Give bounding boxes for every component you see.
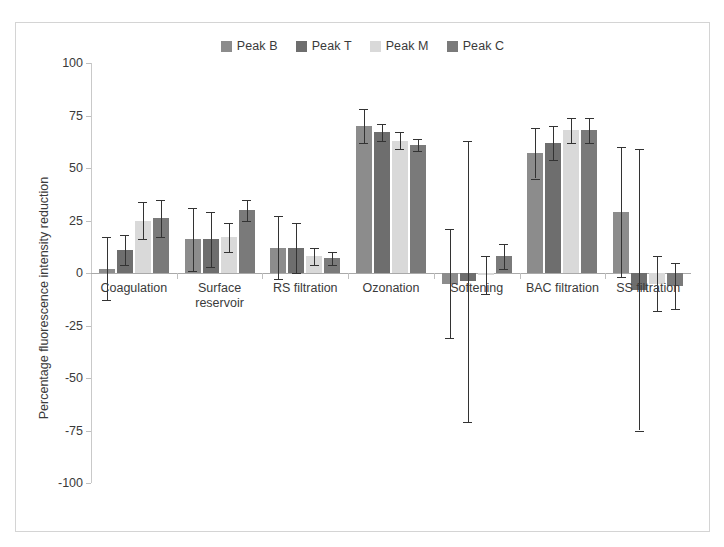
- error-bar: [621, 147, 622, 277]
- bar-group: [91, 63, 177, 483]
- error-bar-cap: [359, 143, 368, 144]
- error-bar-cap: [138, 202, 147, 203]
- legend-item: Peak C: [447, 39, 505, 53]
- error-bar-cap: [499, 269, 508, 270]
- error-bar-cap: [445, 229, 454, 230]
- error-bar-cap: [463, 141, 472, 142]
- error-bar-cap: [206, 212, 215, 213]
- legend-swatch-icon: [221, 41, 232, 52]
- error-bar: [571, 118, 572, 143]
- error-bar-cap: [274, 216, 283, 217]
- error-bar-cap: [445, 338, 454, 339]
- legend-item: Peak B: [221, 39, 278, 53]
- error-bar-cap: [138, 239, 147, 240]
- error-bar-cap: [671, 263, 680, 264]
- error-bar-cap: [377, 141, 386, 142]
- error-bar: [125, 235, 126, 264]
- error-bar-cap: [120, 235, 129, 236]
- error-bar: [161, 200, 162, 238]
- error-bar-cap: [310, 265, 319, 266]
- x-axis-category-label: Coagulation: [91, 281, 177, 296]
- legend-item: Peak T: [296, 39, 352, 53]
- error-bar-cap: [156, 237, 165, 238]
- legend-swatch-icon: [447, 41, 458, 52]
- error-bar-cap: [635, 149, 644, 150]
- error-bar: [382, 124, 383, 141]
- error-bar-cap: [328, 252, 337, 253]
- error-bar: [553, 126, 554, 160]
- error-bar-cap: [328, 265, 337, 266]
- error-bar-cap: [671, 309, 680, 310]
- error-bar-cap: [188, 208, 197, 209]
- bar[interactable]: [392, 141, 408, 273]
- error-bar: [314, 248, 315, 265]
- error-bar: [278, 216, 279, 279]
- error-bar-cap: [463, 422, 472, 423]
- x-axis-tick-mark: [177, 273, 178, 279]
- chart-frame: Peak BPeak TPeak MPeak C Percentage fluo…: [15, 22, 710, 532]
- x-axis-tick-mark: [348, 273, 349, 279]
- error-bar-cap: [549, 126, 558, 127]
- error-bar: [400, 132, 401, 149]
- error-bar: [418, 139, 419, 152]
- bar-group: [520, 63, 606, 483]
- error-bar-cap: [292, 223, 301, 224]
- x-axis-category-label: Ozonation: [348, 281, 434, 296]
- error-bar-cap: [242, 221, 251, 222]
- bar-group: [262, 63, 348, 483]
- error-bar: [296, 223, 297, 273]
- error-bar-cap: [395, 132, 404, 133]
- x-axis-tick-mark: [520, 273, 521, 279]
- error-bar-cap: [359, 109, 368, 110]
- error-bar-cap: [413, 139, 422, 140]
- error-bar-cap: [531, 179, 540, 180]
- legend-swatch-icon: [296, 41, 307, 52]
- error-bar-cap: [292, 273, 301, 274]
- error-bar-cap: [567, 118, 576, 119]
- x-axis-tick-mark: [605, 273, 606, 279]
- bar[interactable]: [356, 126, 372, 273]
- error-bar-cap: [499, 244, 508, 245]
- error-bar-cap: [585, 118, 594, 119]
- error-bar-cap: [102, 300, 111, 301]
- legend-swatch-icon: [370, 41, 381, 52]
- error-bar-cap: [635, 431, 644, 432]
- x-axis-tick-mark: [262, 273, 263, 279]
- error-bar: [247, 200, 248, 221]
- error-bar-cap: [102, 237, 111, 238]
- error-bar: [332, 252, 333, 265]
- error-bar-cap: [653, 256, 662, 257]
- legend-label: Peak C: [463, 39, 505, 53]
- bar[interactable]: [563, 130, 579, 273]
- error-bar: [193, 208, 194, 271]
- error-bar: [364, 109, 365, 143]
- x-axis-category-label: RS filtration: [262, 281, 348, 296]
- bar[interactable]: [374, 132, 390, 273]
- error-bar-cap: [395, 149, 404, 150]
- y-axis-title: Percentage fluorescence intensity reduct…: [37, 98, 51, 498]
- error-bar: [504, 244, 505, 269]
- error-bar-cap: [188, 271, 197, 272]
- legend-label: Peak B: [237, 39, 278, 53]
- error-bar: [211, 212, 212, 267]
- bar[interactable]: [410, 145, 426, 273]
- error-bar-cap: [567, 143, 576, 144]
- error-bar-cap: [224, 252, 233, 253]
- bar-group: [348, 63, 434, 483]
- error-bar-cap: [413, 151, 422, 152]
- error-bar-cap: [549, 160, 558, 161]
- error-bar-cap: [242, 200, 251, 201]
- error-bar-cap: [156, 200, 165, 201]
- x-axis-category-label: Surface reservoir: [177, 281, 263, 311]
- bar[interactable]: [581, 130, 597, 273]
- plot-area: 1007550250-25-50-75-100CoagulationSurfac…: [91, 63, 691, 483]
- x-axis-category-label: Softening: [434, 281, 520, 296]
- error-bar-cap: [481, 256, 490, 257]
- error-bar: [143, 202, 144, 240]
- bar-group: [177, 63, 263, 483]
- bar[interactable]: [545, 143, 561, 273]
- error-bar-cap: [653, 311, 662, 312]
- error-bar-cap: [120, 265, 129, 266]
- bar-group: [605, 63, 691, 483]
- error-bar-cap: [531, 128, 540, 129]
